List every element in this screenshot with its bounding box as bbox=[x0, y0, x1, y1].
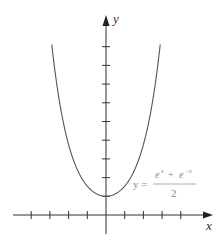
formula-lhs: y = bbox=[133, 178, 147, 190]
y-axis-arrow-icon bbox=[103, 15, 110, 26]
formula-num-e1: e bbox=[155, 169, 160, 180]
formula-den: 2 bbox=[171, 187, 177, 199]
formula-num-e2-exp: −x bbox=[185, 168, 192, 174]
x-axis-label: x bbox=[205, 218, 212, 233]
formula-plus: + bbox=[168, 169, 174, 180]
chart-canvas: y x y = e x + e −x 2 bbox=[0, 0, 223, 247]
formula-num-e1-exp: x bbox=[160, 168, 164, 174]
formula-num-e2: e bbox=[179, 169, 184, 180]
y-axis-label: y bbox=[111, 11, 119, 26]
formula-annotation: y = e x + e −x 2 bbox=[133, 168, 196, 199]
